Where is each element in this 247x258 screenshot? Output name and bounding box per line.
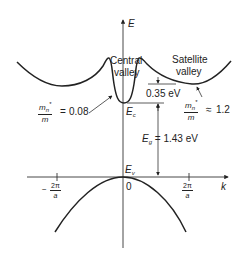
eg-symbol: E — [142, 133, 149, 144]
energy-axis-label: E — [128, 19, 135, 29]
k-axis-label: k — [221, 182, 226, 192]
mass-denominator: m — [38, 115, 52, 124]
central-mass-ratio-fraction: mn* m — [38, 101, 52, 124]
mass-superscript: * — [49, 101, 51, 107]
band-diagram-svg — [0, 0, 247, 258]
ec-subscript: c — [133, 112, 136, 118]
ec-label: Ec — [126, 107, 136, 118]
central-mass-ratio-value: 0.08 — [69, 107, 88, 117]
origin-label: 0 — [126, 182, 132, 192]
eg-relation: = — [155, 133, 161, 144]
central-valley-label-line2: valley — [114, 68, 140, 78]
mass-subscript: n — [46, 107, 49, 113]
satellite-mass-ratio-fraction: mn* m — [184, 99, 198, 122]
tick-label-2pi-a: 2π a — [182, 182, 193, 199]
tick-label-minus-2pi-a: 2π a — [50, 182, 61, 199]
satellite-mass-ratio-relation: ≈ — [206, 105, 212, 115]
satellite-mass-ratio-value: 1.2 — [216, 105, 230, 115]
satellite-valley-label-line1: Satellite — [172, 55, 208, 65]
central-mass-ratio-relation: = — [60, 107, 66, 117]
satellite-valley-label-line2: valley — [176, 67, 202, 77]
tick-den: a — [50, 191, 61, 199]
ev-label: Ev — [125, 165, 135, 176]
valence-band-curve — [55, 177, 186, 232]
mass-denominator: m — [184, 113, 198, 122]
tick-den: a — [182, 191, 193, 199]
band-gap-label: Eg = 1.43 eV — [142, 134, 198, 145]
mass-symbol: m — [39, 103, 46, 112]
ev-symbol: E — [125, 164, 132, 175]
tick-num: 2π — [182, 182, 193, 191]
tick-minus-sign: − — [42, 186, 47, 194]
band-diagram: E k 0 − 2π a 2π a Central valley Satelli… — [0, 0, 247, 258]
eg-value: 1.43 eV — [163, 133, 197, 144]
eg-subscript: g — [149, 139, 152, 145]
mass-numerator: mn* — [184, 99, 198, 113]
central-mass-pointer — [89, 96, 112, 113]
tick-num: 2π — [50, 182, 61, 191]
mass-subscript: n — [192, 105, 195, 111]
ev-subscript: v — [132, 170, 135, 176]
satellite-mass-pointer — [197, 87, 202, 97]
satellite-offset-label: 0.35 eV — [146, 89, 180, 99]
mass-superscript: * — [195, 99, 197, 105]
ec-symbol: E — [126, 106, 133, 117]
mass-symbol: m — [185, 101, 192, 110]
central-valley-label-line1: Central — [110, 56, 142, 66]
mass-numerator: mn* — [38, 101, 52, 115]
